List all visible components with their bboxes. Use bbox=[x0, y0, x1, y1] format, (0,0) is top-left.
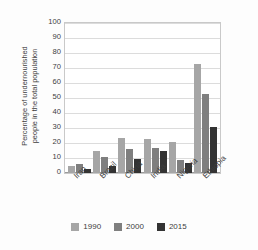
y-axis-tick-50: 50 bbox=[53, 93, 61, 101]
y-axis-tick-100: 100 bbox=[48, 18, 61, 26]
legend-item-2000[interactable]: 2000 bbox=[114, 222, 144, 231]
bar-nigeria-1990[interactable] bbox=[169, 142, 176, 174]
bar-ethiopia-1990[interactable] bbox=[194, 64, 201, 174]
legend-item-1990[interactable]: 1990 bbox=[71, 222, 101, 231]
bar-chart: Percentage of undernourished people in t… bbox=[0, 0, 258, 250]
legend-item-2015[interactable]: 2015 bbox=[157, 222, 187, 231]
bar-brazil-1990[interactable] bbox=[93, 151, 100, 174]
legend-swatch-2015 bbox=[157, 223, 165, 231]
bar-india-1990[interactable] bbox=[144, 139, 151, 174]
legend: 199020002015 bbox=[0, 222, 258, 231]
y-axis-tick-10: 10 bbox=[53, 153, 61, 161]
y-axis-tick-80: 80 bbox=[53, 48, 61, 56]
bar-group-iran bbox=[68, 23, 91, 173]
y-axis-tick-30: 30 bbox=[53, 123, 61, 131]
y-axis-tick-labels: 1009080706050403020100 bbox=[40, 16, 61, 176]
bar-group-nigeria bbox=[169, 23, 192, 173]
y-axis-title: Percentage of undernourished people in t… bbox=[16, 18, 42, 174]
bar-ethiopia-2000[interactable] bbox=[202, 94, 209, 174]
y-axis-tick-60: 60 bbox=[53, 78, 61, 86]
legend-swatch-1990 bbox=[71, 223, 79, 231]
y-axis-title-line1: Percentage of undernourished bbox=[20, 46, 30, 145]
bar-group-india bbox=[144, 23, 167, 173]
bar-group-ethiopia bbox=[194, 23, 217, 173]
bar-group-brazil bbox=[93, 23, 116, 173]
bar-china-1990[interactable] bbox=[118, 138, 125, 173]
y-axis-title-line2: people in the total population bbox=[29, 46, 39, 145]
legend-label-2000: 2000 bbox=[126, 222, 144, 231]
legend-label-2015: 2015 bbox=[169, 222, 187, 231]
bar-group-china bbox=[118, 23, 141, 173]
plot-area bbox=[64, 22, 221, 174]
legend-swatch-2000 bbox=[114, 223, 122, 231]
legend-label-1990: 1990 bbox=[83, 222, 101, 231]
x-axis-category-labels: IranBrazilChinaIndiaNigeriaEthiopia bbox=[64, 174, 219, 218]
y-axis-tick-40: 40 bbox=[53, 108, 61, 116]
y-axis-tick-70: 70 bbox=[53, 63, 61, 71]
y-axis-tick-0: 0 bbox=[57, 168, 61, 176]
y-axis-tick-20: 20 bbox=[53, 138, 61, 146]
bar-groups bbox=[65, 23, 220, 173]
y-axis-tick-90: 90 bbox=[53, 33, 61, 41]
